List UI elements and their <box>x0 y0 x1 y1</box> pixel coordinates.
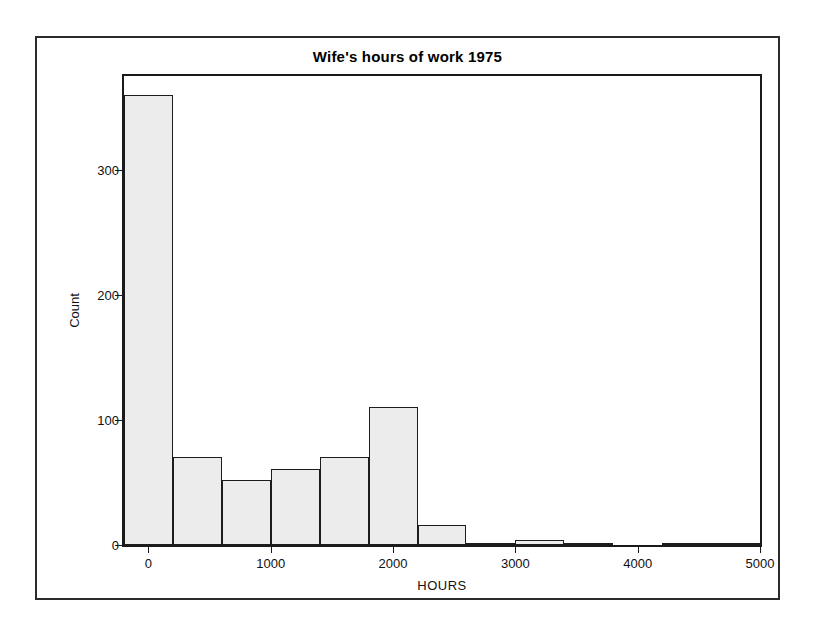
histogram-bar <box>369 407 418 545</box>
x-axis-tick-label: 3000 <box>501 556 530 571</box>
histogram-bar <box>515 540 564 545</box>
figure-outer-frame: Wife's hours of work 1975 Count 01002003… <box>35 36 780 600</box>
y-axis-tick-label: 200 <box>97 287 119 302</box>
x-axis-tick <box>515 545 516 553</box>
chart-title: Wife's hours of work 1975 <box>37 48 778 65</box>
histogram-bar <box>711 543 760 545</box>
x-axis-tick-label: 4000 <box>623 556 652 571</box>
histogram-bar <box>124 95 173 545</box>
y-axis-title-text: Count <box>67 293 82 328</box>
x-axis-title: HOURS <box>124 578 760 593</box>
histogram-bars <box>124 76 760 545</box>
histogram-bar <box>222 480 271 545</box>
histogram-bar <box>271 469 320 545</box>
x-axis-tick <box>393 545 394 553</box>
histogram-bar <box>320 457 369 545</box>
histogram-bar <box>466 543 515 546</box>
y-axis-title: Count <box>66 74 82 547</box>
histogram-bar <box>173 457 222 545</box>
x-axis-tick <box>760 545 761 553</box>
plot-area: 0100200300 010002000300040005000 HOURS <box>122 74 762 547</box>
y-axis-tick-label: 0 <box>112 538 119 553</box>
x-axis-tick-label: 2000 <box>379 556 408 571</box>
x-axis-tick-label: 5000 <box>746 556 775 571</box>
x-axis-tick <box>148 545 149 553</box>
x-axis-tick-label: 1000 <box>256 556 285 571</box>
histogram-bar <box>418 525 467 545</box>
y-axis-tick-label: 100 <box>97 412 119 427</box>
histogram-bar <box>564 543 613 546</box>
y-axis-tick-label: 300 <box>97 162 119 177</box>
x-axis-tick-label: 0 <box>145 556 152 571</box>
histogram-bar <box>662 543 711 545</box>
x-axis-tick <box>271 545 272 553</box>
x-axis-tick <box>638 545 639 553</box>
